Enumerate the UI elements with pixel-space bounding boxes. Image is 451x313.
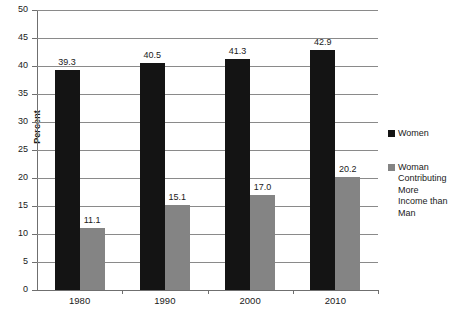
legend-swatch-icon xyxy=(388,164,395,171)
x-axis-tick-mark xyxy=(122,290,123,294)
legend-entry[interactable]: Woman Contributing More Income than Man xyxy=(388,162,450,220)
gridline xyxy=(37,10,378,11)
bar xyxy=(225,59,250,290)
bar-value-label: 20.2 xyxy=(329,164,366,174)
x-axis-category-label: 2010 xyxy=(293,295,378,306)
bar xyxy=(140,63,165,290)
y-axis-tick-label: 10 xyxy=(0,229,28,238)
bar-value-label: 41.3 xyxy=(219,46,256,56)
x-axis-tick-mark xyxy=(378,290,379,294)
y-axis-tick-label: 25 xyxy=(0,145,28,154)
y-axis-tick-label: 5 xyxy=(0,257,28,266)
y-axis-tick-label: 45 xyxy=(0,33,28,42)
y-axis-tick-label: 0 xyxy=(0,285,28,294)
x-axis-category-label: 2000 xyxy=(208,295,293,306)
y-axis-tick-label: 35 xyxy=(0,89,28,98)
bar-value-label: 42.9 xyxy=(304,37,341,47)
bar xyxy=(335,177,360,290)
bar xyxy=(80,228,105,290)
y-axis-tick-label: 40 xyxy=(0,61,28,70)
y-axis-tick-label: 15 xyxy=(0,201,28,210)
y-axis-tick-label: 50 xyxy=(0,5,28,14)
bar-value-label: 17.0 xyxy=(244,182,281,192)
x-axis-tick-mark xyxy=(293,290,294,294)
x-axis-category-label: 1990 xyxy=(122,295,207,306)
legend-swatch-icon xyxy=(388,130,395,137)
x-axis-tick-mark xyxy=(208,290,209,294)
bar-value-label: 11.1 xyxy=(74,215,111,225)
y-axis-tick-label: 30 xyxy=(0,117,28,126)
legend-entry[interactable]: Women xyxy=(388,128,450,140)
bar-chart: Percent 50454035302520151050 39.311.140.… xyxy=(0,0,451,313)
bar xyxy=(55,70,80,290)
y-axis-tick-label: 20 xyxy=(0,173,28,182)
bar-value-label: 15.1 xyxy=(159,192,196,202)
bar-value-label: 39.3 xyxy=(49,57,86,67)
bar xyxy=(165,205,190,290)
legend-label: Women xyxy=(398,128,429,140)
chart-legend: WomenWoman Contributing More Income than… xyxy=(388,128,450,241)
bar-value-label: 40.5 xyxy=(134,50,171,60)
plot-area xyxy=(37,10,378,290)
legend-label: Woman Contributing More Income than Man xyxy=(398,162,450,220)
bar xyxy=(250,195,275,290)
x-axis-category-label: 1980 xyxy=(37,295,122,306)
